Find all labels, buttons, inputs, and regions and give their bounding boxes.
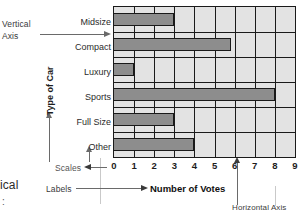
x-tick-6: 6 [232,160,237,171]
category-label-luxury: Luxury [84,67,111,77]
row-separator [114,107,295,108]
row-separator [114,57,295,58]
x-tick-2: 2 [152,160,157,171]
category-label-full-size: Full Size [76,117,111,127]
x-tick-9: 9 [292,160,297,171]
page-margin-text: ical [0,178,18,192]
bar-chart-plot-area [113,6,296,158]
labels-arrow-icon [76,185,149,192]
bar-midsize [114,13,174,26]
bar-other [114,138,194,151]
y-axis-title: Type of Car [42,48,58,134]
vertical-axis-annotation-line1: Vertical [2,18,31,30]
gridline-9 [295,7,296,157]
vertical-axis-annotation: Vertical Axis [2,18,31,42]
labels-annotation: Labels [46,184,72,194]
category-label-other: Other [88,142,111,152]
scales-right-arrow-icon [84,164,108,171]
category-label-compact: Compact [75,42,111,52]
row-separator [114,32,295,33]
x-tick-1: 1 [131,160,136,171]
bar-sports [114,88,275,101]
page-gutter-rule-right [275,186,276,206]
x-axis-tick-labels: 0123456789 [113,160,296,174]
bar-compact [114,38,231,51]
x-tick-4: 4 [192,160,197,171]
row-separator [114,82,295,83]
x-tick-0: 0 [111,160,116,171]
bar-full-size [114,113,174,126]
y-axis-title-text: Type of Car [45,67,55,116]
row-separator [114,132,295,133]
x-axis-title: Number of Votes [150,183,225,194]
page-margin-dots: : [2,196,5,207]
x-tick-5: 5 [212,160,217,171]
vertical-axis-annotation-line2: Axis [2,30,31,42]
scales-annotation: Scales [55,163,81,173]
bar-luxury [114,63,134,76]
x-tick-8: 8 [272,160,277,171]
category-label-sports: Sports [85,92,111,102]
category-label-midsize: Midsize [80,17,111,27]
x-tick-7: 7 [252,160,257,171]
y-axis-category-labels: MidsizeCompactLuxurySportsFull SizeOther [58,10,111,160]
x-tick-3: 3 [172,160,177,171]
